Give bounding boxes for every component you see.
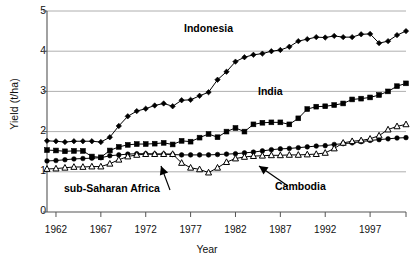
data-point — [341, 101, 346, 106]
data-point — [44, 138, 49, 143]
x-axis-title: Year — [0, 243, 414, 255]
data-point — [404, 135, 409, 140]
data-point — [161, 101, 166, 106]
data-point — [188, 139, 193, 144]
data-point — [260, 120, 265, 125]
data-point — [332, 33, 337, 38]
data-point — [98, 139, 103, 144]
data-point — [322, 150, 328, 156]
data-point — [359, 96, 364, 101]
data-point — [170, 104, 175, 109]
data-point — [134, 108, 139, 113]
data-point — [214, 164, 220, 170]
data-point — [377, 93, 382, 98]
data-point — [287, 146, 292, 151]
data-point — [72, 148, 77, 153]
data-point — [215, 135, 220, 140]
annotation-sub-saharan-africa: sub-Saharan Africa — [64, 182, 160, 194]
x-tick-label: 1997 — [350, 224, 390, 235]
data-point — [305, 36, 310, 41]
x-tick-label: 1962 — [36, 224, 76, 235]
data-point — [385, 38, 390, 43]
data-point — [323, 35, 328, 40]
data-point — [394, 32, 399, 37]
data-point — [395, 136, 400, 141]
data-point — [314, 104, 319, 109]
data-point — [403, 121, 409, 127]
data-point — [403, 28, 408, 33]
data-point — [251, 52, 256, 57]
annotation-cambodia: Cambodia — [275, 180, 326, 192]
data-point — [71, 139, 76, 144]
data-point — [287, 44, 292, 49]
data-point — [305, 145, 310, 150]
data-point — [81, 156, 86, 161]
data-point — [54, 158, 59, 163]
arrow-sub-saharan-africa — [160, 166, 170, 190]
data-point — [368, 95, 373, 100]
data-point — [206, 132, 211, 137]
data-point — [278, 47, 283, 52]
x-tick-label: 1967 — [81, 224, 121, 235]
data-point — [72, 157, 77, 162]
data-point — [125, 142, 130, 147]
data-point — [404, 81, 409, 86]
data-point — [331, 145, 337, 151]
data-point — [152, 103, 157, 108]
x-tick-label: 1987 — [260, 224, 300, 235]
data-point — [349, 34, 354, 39]
data-point — [188, 164, 194, 170]
x-tick-label: 1992 — [305, 224, 345, 235]
data-point — [376, 132, 382, 138]
data-point — [332, 103, 337, 108]
data-point — [197, 153, 202, 158]
data-point — [386, 89, 391, 94]
data-point — [63, 157, 68, 162]
data-point — [386, 137, 391, 142]
data-point — [116, 144, 121, 149]
data-point — [287, 122, 292, 127]
data-point — [179, 153, 184, 158]
data-point — [143, 142, 148, 147]
data-point — [323, 143, 328, 148]
data-point — [45, 148, 50, 153]
x-tick-label: 1972 — [126, 224, 166, 235]
x-tick-label: 1977 — [171, 224, 211, 235]
data-point — [134, 142, 139, 147]
chart-container: Yield (t/ha) 5 4 3 2 1 0 196219671972197… — [0, 0, 414, 267]
data-point — [269, 120, 274, 125]
data-point — [305, 107, 310, 112]
data-point — [179, 138, 184, 143]
data-point — [89, 139, 94, 144]
data-point — [45, 159, 50, 164]
data-point — [80, 139, 85, 144]
data-point — [215, 152, 220, 157]
data-point — [161, 140, 166, 145]
data-point — [81, 148, 86, 153]
data-point — [99, 155, 104, 160]
annotation-india: India — [258, 85, 283, 97]
data-point — [170, 142, 175, 147]
data-point — [62, 139, 67, 144]
data-point — [296, 145, 301, 150]
series-line — [47, 83, 406, 157]
series-indonesia — [44, 28, 408, 144]
data-point — [251, 122, 256, 127]
data-point — [107, 148, 112, 153]
series-line — [47, 31, 406, 142]
data-point — [395, 84, 400, 89]
data-point — [269, 49, 274, 54]
data-point — [188, 97, 193, 102]
data-point — [53, 139, 58, 144]
data-point — [278, 120, 283, 125]
data-point — [224, 129, 229, 134]
data-point — [242, 55, 247, 60]
arrow-head — [259, 166, 268, 174]
data-point — [242, 129, 247, 134]
data-point — [296, 38, 301, 43]
data-point — [90, 156, 95, 161]
data-point — [188, 153, 193, 158]
data-point — [152, 141, 157, 146]
series-india — [45, 81, 409, 160]
data-point — [358, 32, 363, 37]
